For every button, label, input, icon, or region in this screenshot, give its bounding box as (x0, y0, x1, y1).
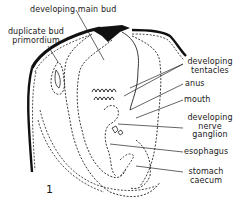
label-stomach-line2: caecum (178, 177, 234, 186)
label-duplicate-bud-line2: primordium (6, 37, 66, 46)
bud-development-diagram: developing main bud duplicate bud primor… (0, 0, 240, 208)
label-developing-nerve-ganglion: developing nerve ganglion (182, 114, 238, 140)
label-esophagus: esophagus (184, 148, 228, 157)
label-developing-main-bud: developing main bud (30, 6, 116, 15)
label-duplicate-bud-primordium: duplicate bud primordium (6, 28, 66, 45)
label-tentacles-line2: tentacles (182, 67, 238, 76)
label-stomach-caecum: stomach caecum (178, 168, 234, 185)
label-nerve-line3: ganglion (182, 131, 238, 140)
label-mouth: mouth (184, 96, 210, 105)
figure-number: 1 (46, 183, 53, 196)
label-developing-tentacles: developing tentacles (182, 58, 238, 75)
label-anus: anus (185, 80, 205, 89)
